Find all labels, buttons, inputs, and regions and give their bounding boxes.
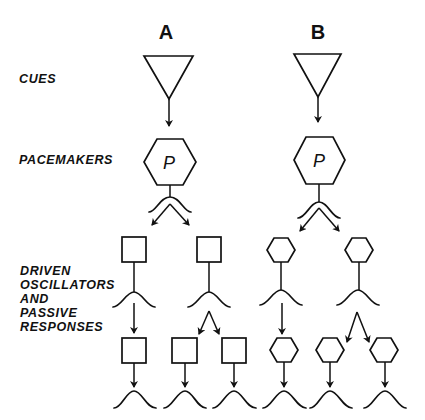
wave-icon <box>114 391 156 408</box>
row-label-driven-1: DRIVEN <box>20 264 71 278</box>
arrow-icon <box>300 208 319 231</box>
wave-icon <box>260 290 302 305</box>
pacemaker-label: P <box>313 151 325 171</box>
wave-icon <box>188 292 230 307</box>
wave-icon <box>364 391 406 408</box>
passive-square-icon <box>222 338 246 363</box>
arrow-icon <box>152 204 170 225</box>
column-a: P <box>113 56 256 408</box>
driven-oscillator-hexagon-icon <box>345 238 373 262</box>
arrow-icon <box>357 312 369 342</box>
passive-square-icon <box>172 338 197 363</box>
column-b: P <box>260 54 406 408</box>
wave-icon <box>263 391 306 408</box>
row-label-driven-4: PASSIVE <box>20 306 78 320</box>
wave-icon <box>310 391 352 408</box>
row-label-driven-5: RESPONSES <box>20 320 103 334</box>
arrow-icon <box>347 312 357 342</box>
wave-icon <box>298 202 340 218</box>
arrow-icon <box>170 204 189 225</box>
wave-icon <box>164 391 206 408</box>
driven-oscillator-hexagon-icon <box>267 238 295 262</box>
driven-oscillator-hexagon-icon <box>270 338 298 362</box>
cue-triangle-icon <box>294 54 341 97</box>
driven-oscillator-hexagon-icon <box>316 338 344 362</box>
arrow-icon <box>199 311 209 334</box>
passive-square-icon <box>197 237 221 262</box>
arrow-icon <box>319 208 339 231</box>
wave-icon <box>213 391 256 408</box>
column-label-b: B <box>311 21 325 43</box>
circadian-hierarchy-diagram: A B CUES PACEMAKERS DRIVEN OSCILLATORS A… <box>0 0 425 420</box>
row-label-driven-2: OSCILLATORS <box>20 278 115 292</box>
passive-square-icon <box>122 338 146 363</box>
row-label-pacemakers: PACEMAKERS <box>19 153 113 167</box>
wave-icon <box>337 290 379 305</box>
row-label-cues: CUES <box>19 72 56 86</box>
passive-square-icon <box>122 237 146 262</box>
driven-oscillator-hexagon-icon <box>370 338 398 362</box>
cue-triangle-icon <box>144 56 193 99</box>
arrow-icon <box>209 311 219 334</box>
pacemaker-label: P <box>163 153 175 173</box>
row-label-driven-3: AND <box>19 292 49 306</box>
column-label-a: A <box>159 21 173 43</box>
